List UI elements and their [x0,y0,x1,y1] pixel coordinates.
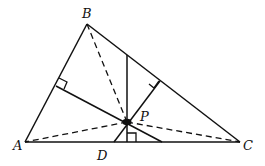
side-bc [87,24,240,142]
dashed-pa [25,122,127,142]
label-a: A [12,138,22,153]
right-angle-mark-ac [127,133,136,142]
geometry-diagram: A B C D P [0,0,265,166]
point-p [123,119,132,125]
side-ab [25,24,87,142]
label-b: B [81,6,92,21]
right-angle-mark-ab [59,78,67,89]
perpendicular-to-bc [114,81,160,142]
label-d: D [96,148,108,163]
label-c: C [243,138,253,153]
label-p: P [139,109,149,124]
